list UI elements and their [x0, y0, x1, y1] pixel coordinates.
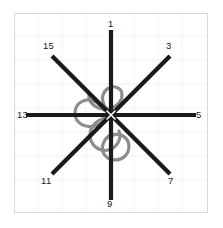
figure-root: 1 3 5 7 9 11 13 15 — [0, 0, 223, 228]
spoke-label-3: 3 — [166, 41, 172, 51]
spoke-label-9: 9 — [107, 199, 113, 209]
radial-spoke-diagram — [0, 0, 223, 228]
spoke-label-7: 7 — [168, 176, 174, 186]
spoke-label-13: 13 — [17, 110, 28, 120]
spoke-3 — [111, 56, 170, 115]
spoke-label-1: 1 — [108, 19, 114, 29]
spoke-label-15: 15 — [43, 41, 54, 51]
spoke-7 — [111, 115, 170, 174]
spoke-label-5: 5 — [196, 110, 202, 120]
spoke-label-11: 11 — [41, 176, 51, 186]
spoke-15 — [52, 56, 111, 115]
